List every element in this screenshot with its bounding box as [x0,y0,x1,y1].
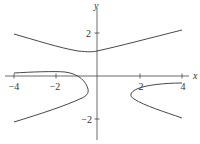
y-tick-label: 2 [86,28,91,39]
y-tick-label: −2 [81,114,92,125]
x-axis-label: x [192,70,198,81]
right-branch-curve [131,83,182,118]
chart-canvas: −4 −2 2 4 2 −2 x y [0,0,200,144]
y-axis-label: y [93,0,99,11]
x-tick-label: −4 [9,81,20,92]
x-tick-label: −2 [50,81,61,92]
left-branch-curve [14,72,88,122]
